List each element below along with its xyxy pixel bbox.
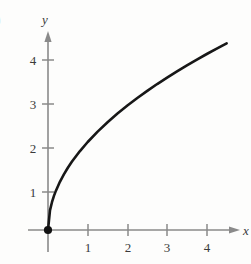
y-axis-tick-label-2: 2: [26, 142, 40, 155]
origin-point-marker: [44, 226, 52, 234]
x-axis-arrow-icon: [229, 226, 240, 233]
figure-panel: ) 4 3 2 1 1 2 3 4 y x: [0, 0, 251, 264]
x-axis-tick-label-3: 3: [160, 241, 174, 254]
x-axis-tick-label-4: 4: [200, 241, 214, 254]
y-axis-tick-label-3: 3: [26, 98, 40, 111]
y-axis-label: y: [42, 13, 48, 26]
x-axis-tick-label-1: 1: [81, 241, 95, 254]
x-axis-label: x: [243, 224, 249, 237]
y-axis-tick-label-4: 4: [26, 54, 40, 67]
x-axis-tick-label-2: 2: [121, 241, 135, 254]
y-axis-arrow-icon: [44, 31, 51, 42]
y-axis-tick-label-1: 1: [26, 186, 40, 199]
plot-area: [0, 0, 251, 264]
function-curve: [48, 43, 227, 230]
